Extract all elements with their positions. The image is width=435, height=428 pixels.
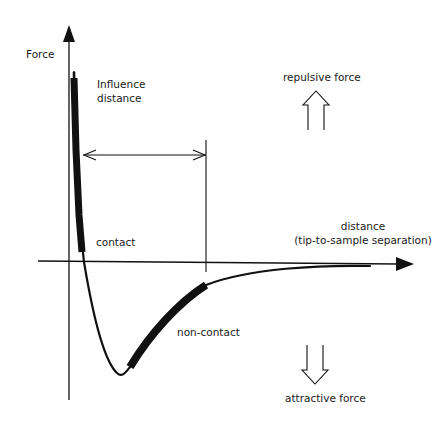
non-contact-label: non-contact xyxy=(177,326,240,339)
influence-label-line1: Influence xyxy=(97,78,145,91)
repulsive-force-label: repulsive force xyxy=(283,71,361,84)
attractive-force-label: attractive force xyxy=(285,392,366,405)
x-axis-label-line1: distance xyxy=(308,220,418,233)
y-axis-label: Force xyxy=(26,48,54,61)
influence-label-line2: distance xyxy=(97,92,142,105)
contact-region-segment xyxy=(74,78,82,252)
influence-distance-marker xyxy=(83,140,206,272)
x-axis-arrowhead-icon xyxy=(396,257,414,271)
contact-label: contact xyxy=(96,236,135,249)
y-axis-arrowhead-icon xyxy=(63,25,75,42)
distance-axis xyxy=(38,257,414,271)
force-distance-diagram: Force Influence distance repulsive force… xyxy=(0,0,435,428)
diagram-canvas xyxy=(0,0,435,428)
hollow-down-arrow-icon xyxy=(302,345,328,384)
x-axis-label-line2: (tip-to-sample separation) xyxy=(283,234,435,247)
hollow-up-arrow-icon xyxy=(303,91,329,130)
